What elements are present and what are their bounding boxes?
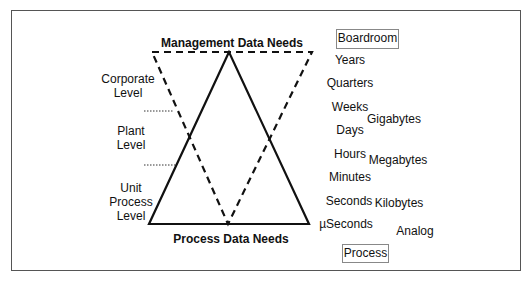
time-scale-hours: Hours (334, 147, 366, 161)
plant-level-label: Plant Level (117, 124, 146, 152)
dashed-inverted-triangle-shape (152, 52, 312, 224)
process-box: Process (342, 244, 389, 263)
data-size-gigabytes: Gigabytes (367, 112, 421, 126)
time-scale-minutes: Minutes (329, 170, 371, 184)
time-scale-microseconds: µSeconds (319, 217, 373, 231)
corporate-level-label: Corporate Level (101, 72, 154, 100)
time-scale-weeks: Weeks (332, 100, 368, 114)
process-data-needs-label: Process Data Needs (173, 232, 288, 246)
solid-triangle-shape (149, 52, 309, 224)
management-data-needs-label: Management Data Needs (161, 36, 303, 50)
time-scale-days: Days (336, 123, 363, 137)
unit-process-level-label: Unit Process Level (109, 181, 152, 223)
data-size-kilobytes: Kilobytes (375, 196, 424, 210)
time-scale-quarters: Quarters (327, 76, 374, 90)
time-scale-years: Years (335, 53, 365, 67)
boardroom-box: Boardroom (336, 29, 399, 49)
data-size-analog: Analog (396, 224, 433, 238)
data-size-megabytes: Megabytes (369, 153, 428, 167)
time-scale-seconds: Seconds (326, 194, 373, 208)
